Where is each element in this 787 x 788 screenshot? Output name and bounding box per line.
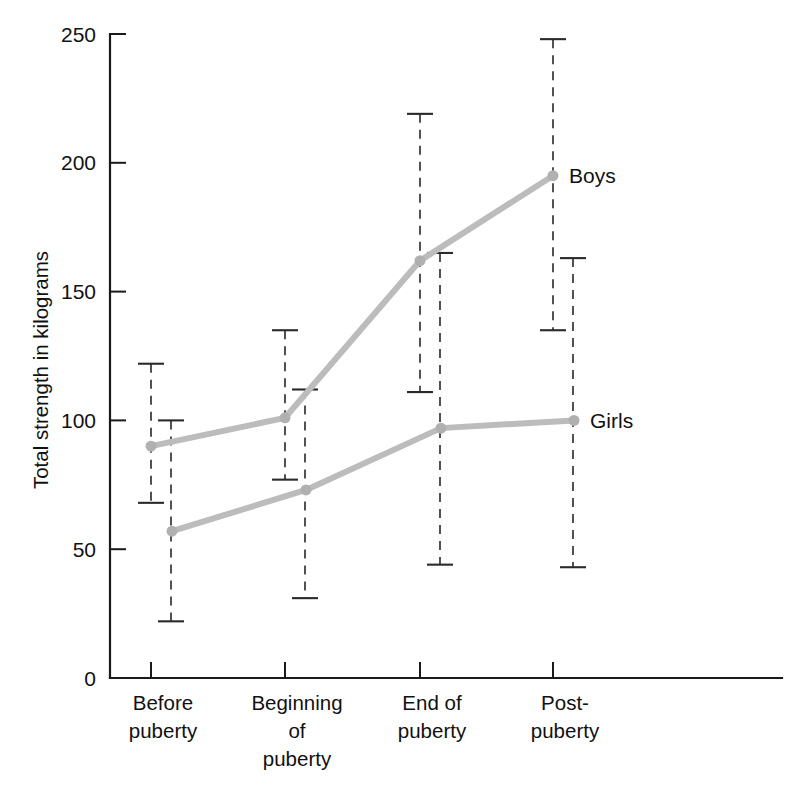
data-point-marker	[146, 441, 157, 452]
data-point-marker	[415, 255, 426, 266]
strength-vs-puberty-line-chart: Total strength in kilograms 050100150200…	[0, 0, 787, 788]
x-axis-labels-group: BeforepubertyBeginningofpubertyEnd ofpub…	[129, 691, 600, 770]
data-point-marker	[548, 170, 559, 181]
y-tick-label: 0	[84, 667, 96, 690]
x-axis-ticks	[151, 662, 553, 678]
y-tick-label: 50	[73, 538, 96, 561]
x-tick-label: Beginning	[251, 691, 342, 714]
y-axis-ticks: 050100150200250	[61, 23, 126, 690]
y-tick-label: 100	[61, 409, 96, 432]
y-tick-label: 150	[61, 280, 96, 303]
data-point-marker	[167, 526, 178, 537]
x-tick-label: puberty	[531, 719, 600, 742]
y-axis-title: Total strength in kilograms	[29, 251, 52, 489]
y-tick-label: 200	[61, 151, 96, 174]
x-tick-label: End of	[402, 691, 462, 714]
series-line-boys	[151, 176, 553, 446]
series-label-boys: Boys	[569, 164, 616, 187]
x-tick-label: Post-	[541, 691, 589, 714]
series-label-girls: Girls	[590, 409, 633, 432]
x-tick-label: puberty	[129, 719, 198, 742]
x-tick-label: puberty	[398, 719, 467, 742]
data-point-marker	[301, 484, 312, 495]
y-tick-label: 250	[61, 23, 96, 46]
data-point-marker	[280, 412, 291, 423]
data-point-marker	[569, 415, 580, 426]
x-tick-label: Before	[133, 691, 193, 714]
data-point-marker	[436, 423, 447, 434]
series-markers-group	[146, 170, 580, 536]
series-labels-group: BoysGirls	[569, 164, 633, 432]
series-line-girls	[172, 420, 574, 531]
x-tick-label: of	[288, 719, 305, 742]
x-tick-label: puberty	[263, 747, 332, 770]
series-lines-group	[151, 176, 574, 531]
